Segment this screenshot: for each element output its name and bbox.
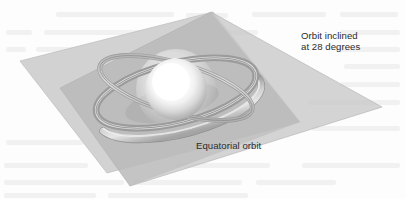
label-equatorial-orbit: Equatorial orbit — [196, 140, 261, 151]
label-orbit-inclined-line1: Orbit inclined — [301, 30, 360, 41]
orbital-inclination-figure: Orbit inclined at 28 degrees Equatorial … — [0, 0, 406, 199]
label-equatorial-orbit-line1: Equatorial orbit — [196, 140, 261, 151]
label-orbit-inclined: Orbit inclined at 28 degrees — [301, 30, 360, 53]
label-orbit-inclined-line2: at 28 degrees — [301, 41, 360, 52]
